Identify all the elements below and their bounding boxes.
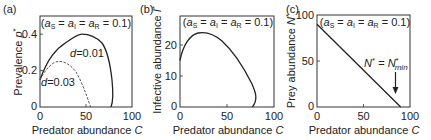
panel-a-label: (a) xyxy=(3,3,16,15)
y-axis-label: Infective abundance I* xyxy=(150,6,163,114)
arrow-down-icon xyxy=(393,87,399,94)
parameter-annotation: (aS = aI = aR = 0.1) xyxy=(183,16,273,29)
x-axis-label: Predator abundance C xyxy=(309,124,420,136)
panel-a: (a) 0.4 0.2 0 0 50 100 Predator abundanc… xyxy=(3,3,142,136)
ytick-label: 20 xyxy=(165,39,177,51)
xtick-label: 50 xyxy=(80,110,92,122)
xtick-label: 100 xyxy=(123,110,141,122)
xtick-label: 0 xyxy=(37,110,43,122)
ytick-label: 10 xyxy=(165,70,177,82)
xtick-label: 0 xyxy=(177,110,183,122)
ytick-label: 50 xyxy=(302,55,314,67)
x-axis-label: Predator abundance C xyxy=(173,124,284,136)
ytick-label: 100 xyxy=(296,9,314,21)
y-axis-label: Prevalence p* xyxy=(11,28,24,95)
xtick-label: 100 xyxy=(265,110,283,122)
panel-b: (b) 20 10 0 0 50 100 Predator abundance … xyxy=(140,3,283,136)
x-axis-label: Predator abundance C xyxy=(32,124,143,136)
xtick-label: 50 xyxy=(221,110,233,122)
xtick-label: 100 xyxy=(401,110,419,122)
parameter-annotation: (aS = aI = aR = 0.1) xyxy=(320,16,410,29)
parameter-annotation: (aS = aI = aR = 0.1) xyxy=(41,17,131,30)
y-axis-label: Prey abundance N* xyxy=(284,14,297,108)
curve-d-0.01 xyxy=(40,34,113,107)
panel-b-axes-frame xyxy=(180,16,274,107)
curve-label-d-0.03: d=0.03 xyxy=(41,76,75,88)
xtick-label: 0 xyxy=(314,110,320,122)
curve-infective xyxy=(180,33,256,107)
figure: (a) 0.4 0.2 0 0 50 100 Predator abundanc… xyxy=(0,0,431,140)
xtick-label: 50 xyxy=(357,110,369,122)
nmin-label: N* = N*min xyxy=(364,56,408,72)
curve-label-d-0.01: d=0.01 xyxy=(70,47,104,59)
panel-c: (c) 100 50 0 0 50 100 Predator abundance… xyxy=(284,3,419,136)
